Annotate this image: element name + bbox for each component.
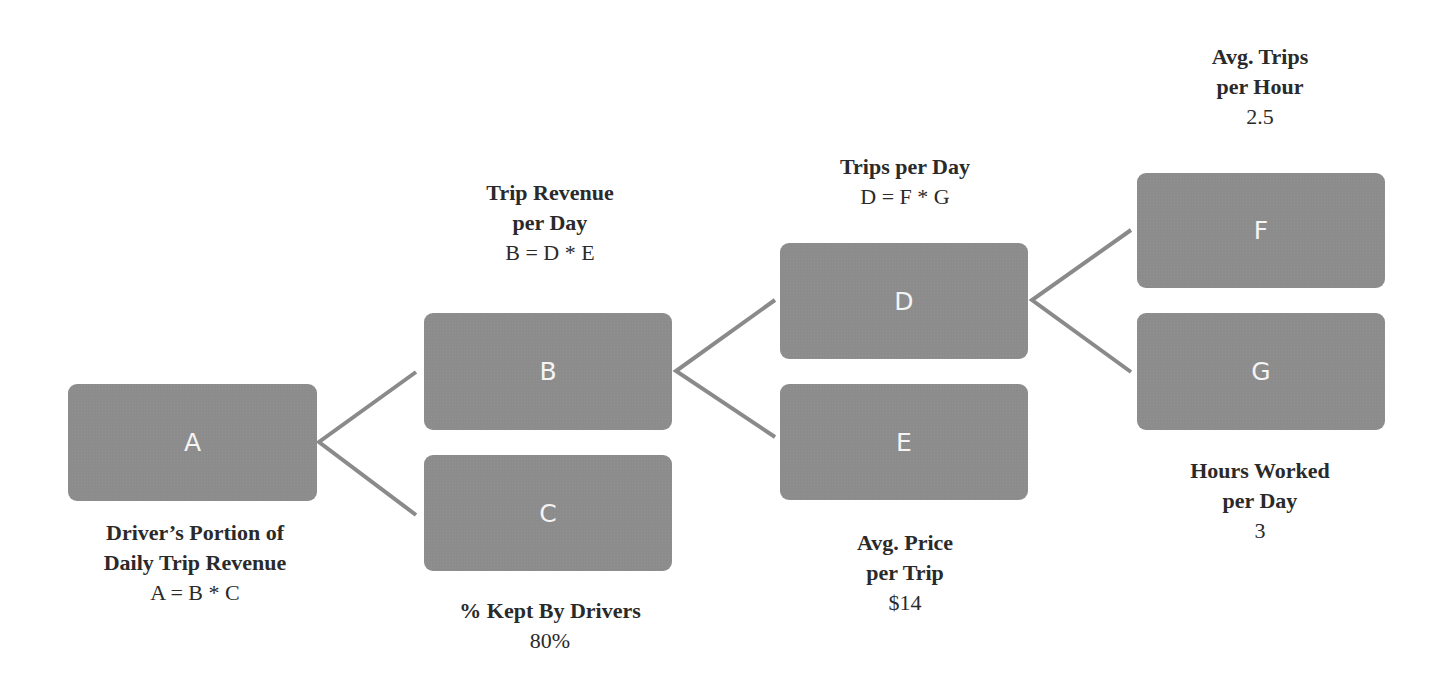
connector-d-fg — [1032, 230, 1131, 372]
node-e-title-1: Avg. Price — [755, 528, 1055, 558]
node-g-letter: G — [1251, 357, 1270, 386]
node-c-label: % Kept By Drivers 80% — [400, 596, 700, 656]
node-b-letter: B — [539, 357, 556, 386]
node-b-label: Trip Revenue per Day B = D * E — [400, 178, 700, 268]
node-f-title-1: Avg. Trips — [1110, 42, 1410, 72]
node-a-box: A — [68, 384, 317, 501]
node-c-title-1: % Kept By Drivers — [400, 596, 700, 626]
node-c-box: C — [424, 455, 672, 571]
node-b-title-2: per Day — [400, 208, 700, 238]
node-e-letter: E — [896, 428, 912, 457]
driver-tree-diagram: A Driver’s Portion of Daily Trip Revenue… — [0, 0, 1447, 688]
node-a-formula: A = B * C — [40, 578, 350, 608]
node-g-title-1: Hours Worked — [1110, 456, 1410, 486]
node-f-title-2: per Hour — [1110, 72, 1410, 102]
node-b-formula: B = D * E — [400, 238, 700, 268]
node-g-box: G — [1137, 313, 1385, 430]
node-c-letter: C — [539, 499, 556, 528]
node-f-value: 2.5 — [1110, 102, 1410, 132]
node-d-letter: D — [894, 287, 913, 316]
node-a-title-2: Daily Trip Revenue — [40, 548, 350, 578]
connector-a-bc — [319, 372, 416, 515]
node-d-label: Trips per Day D = F * G — [755, 152, 1055, 212]
node-e-title-2: per Trip — [755, 558, 1055, 588]
node-f-letter: F — [1254, 216, 1268, 245]
node-g-value: 3 — [1110, 516, 1410, 546]
node-a-title-1: Driver’s Portion of — [40, 518, 350, 548]
node-d-title-1: Trips per Day — [755, 152, 1055, 182]
node-a-label: Driver’s Portion of Daily Trip Revenue A… — [40, 518, 350, 608]
node-g-label: Hours Worked per Day 3 — [1110, 456, 1410, 546]
node-f-label: Avg. Trips per Hour 2.5 — [1110, 42, 1410, 132]
node-d-formula: D = F * G — [755, 182, 1055, 212]
node-g-title-2: per Day — [1110, 486, 1410, 516]
node-a-letter: A — [184, 428, 201, 457]
node-c-value: 80% — [400, 626, 700, 656]
node-b-box: B — [424, 313, 672, 430]
connector-b-de — [676, 300, 775, 437]
node-e-box: E — [780, 384, 1028, 500]
node-e-value: $14 — [755, 588, 1055, 618]
node-d-box: D — [780, 243, 1028, 359]
node-f-box: F — [1137, 173, 1385, 288]
node-b-title-1: Trip Revenue — [400, 178, 700, 208]
node-e-label: Avg. Price per Trip $14 — [755, 528, 1055, 618]
